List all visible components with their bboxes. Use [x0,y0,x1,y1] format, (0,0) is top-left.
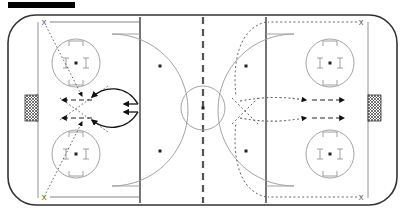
goal-right-group [368,94,381,122]
goal-net-left [25,95,38,121]
player-x-bottom-right[interactable]: X [359,194,364,201]
title-bar [8,2,75,8]
neutral-dot-top-left [159,65,162,68]
neutral-dot-bottom-left [159,150,162,153]
neutral-dot-top-right [245,65,248,68]
hockey-rink-diagram: X X X X [0,0,405,217]
player-x-top-left[interactable]: X [42,19,47,26]
neutral-dot-bottom-right [245,150,248,153]
goal-net-right [368,95,381,121]
faceoff-dot [75,153,78,156]
player-x-top-right[interactable]: X [359,19,364,26]
center-ice-dot [202,107,205,110]
faceoff-dot [75,62,78,65]
faceoff-dot [329,153,332,156]
player-x-bottom-left[interactable]: X [42,194,47,201]
drill-diagram-stage: X X X X [0,0,405,217]
goal-left-group [25,94,38,122]
faceoff-dot [329,62,332,65]
